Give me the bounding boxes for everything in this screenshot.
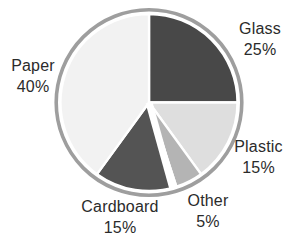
pie-slice-glass — [149, 14, 238, 103]
slice-label-cardboard: Cardboard 15% — [70, 196, 170, 238]
slice-percent-other: 5% — [182, 211, 234, 232]
slice-name-cardboard: Cardboard — [70, 196, 170, 217]
slice-name-glass: Glass — [232, 18, 288, 39]
slice-label-glass: Glass 25% — [232, 18, 288, 60]
slice-percent-plastic: 15% — [228, 157, 289, 178]
pie-chart-figure: Glass 25% Plastic 15% Other 5% Cardboard… — [0, 0, 289, 245]
slice-label-paper: Paper 40% — [6, 55, 60, 97]
slice-name-plastic: Plastic — [228, 136, 289, 157]
slice-name-other: Other — [182, 190, 234, 211]
slice-percent-cardboard: 15% — [70, 217, 170, 238]
slice-label-plastic: Plastic 15% — [228, 136, 289, 178]
slice-name-paper: Paper — [6, 55, 60, 76]
slice-label-other: Other 5% — [182, 190, 234, 232]
slice-percent-paper: 40% — [6, 76, 60, 97]
slice-percent-glass: 25% — [232, 39, 288, 60]
